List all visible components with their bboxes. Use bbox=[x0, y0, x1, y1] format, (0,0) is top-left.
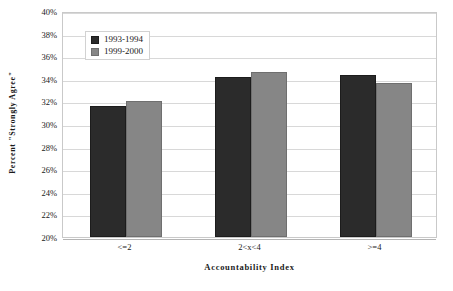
x-tick-label: >=4 bbox=[368, 243, 382, 252]
x-axis-tick-labels: <=22<x<4>=4 bbox=[62, 243, 437, 259]
bar bbox=[340, 75, 376, 237]
y-tick-label: 20% bbox=[41, 234, 57, 243]
bar bbox=[126, 101, 162, 237]
legend: 1993-19941999-2000 bbox=[85, 31, 150, 60]
y-tick-label: 28% bbox=[41, 143, 57, 152]
legend-swatch-icon bbox=[91, 48, 99, 56]
bar bbox=[90, 106, 126, 237]
x-axis-title: Accountability Index bbox=[62, 262, 437, 272]
x-tick-label: 2<x<4 bbox=[238, 243, 260, 252]
legend-item: 1993-1994 bbox=[91, 35, 143, 44]
y-tick-label: 32% bbox=[41, 98, 57, 107]
legend-item: 1999-2000 bbox=[91, 47, 143, 56]
x-tick-label: <=2 bbox=[118, 243, 132, 252]
legend-swatch-icon bbox=[91, 36, 99, 44]
bar bbox=[215, 77, 251, 237]
bar bbox=[376, 83, 412, 237]
y-tick-label: 30% bbox=[41, 121, 57, 130]
y-tick-label: 40% bbox=[41, 8, 57, 17]
y-tick-label: 36% bbox=[41, 53, 57, 62]
y-axis-tick-labels: 40%38%36%34%32%30%28%26%24%22%20% bbox=[24, 12, 60, 238]
y-axis-title-text: Percent "Strongly Agree" bbox=[8, 71, 17, 173]
y-axis-title: Percent "Strongly Agree" bbox=[0, 0, 24, 245]
y-tick-label: 38% bbox=[41, 30, 57, 39]
bar-chart: Percent "Strongly Agree" 40%38%36%34%32%… bbox=[0, 0, 453, 291]
gridline bbox=[63, 239, 436, 240]
y-tick-label: 34% bbox=[41, 76, 57, 85]
y-tick-label: 24% bbox=[41, 189, 57, 198]
legend-label: 1993-1994 bbox=[104, 35, 143, 44]
y-tick-label: 22% bbox=[41, 211, 57, 220]
y-tick-label: 26% bbox=[41, 166, 57, 175]
legend-label: 1999-2000 bbox=[104, 47, 143, 56]
bar bbox=[251, 72, 287, 237]
